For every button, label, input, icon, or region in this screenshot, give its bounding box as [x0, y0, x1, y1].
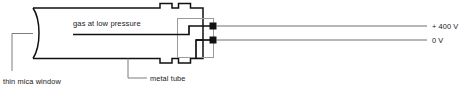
high-voltage-terminal[interactable]: [210, 23, 217, 30]
metal-tube-leader-line: [128, 59, 147, 79]
high-voltage-label: + 400 V: [432, 22, 458, 31]
ground-voltage-label: 0 V: [432, 36, 443, 45]
anode-conductor-step: [181, 26, 213, 35]
metal-tube-label: metal tube: [150, 74, 186, 83]
ground-terminal[interactable]: [210, 37, 217, 44]
gas-label: gas at low pressure: [73, 19, 141, 28]
mica-window-label: thin mica window: [3, 77, 61, 86]
thin-mica-window-curve: [33, 8, 39, 59]
diagram-canvas: gas at low pressure thin mica window met…: [0, 0, 473, 93]
mica-window-leader-line: [12, 34, 33, 72]
geiger-muller-tube-diagram: gas at low pressure thin mica window met…: [0, 0, 473, 93]
cathode-conductor-step: [196, 40, 203, 59]
